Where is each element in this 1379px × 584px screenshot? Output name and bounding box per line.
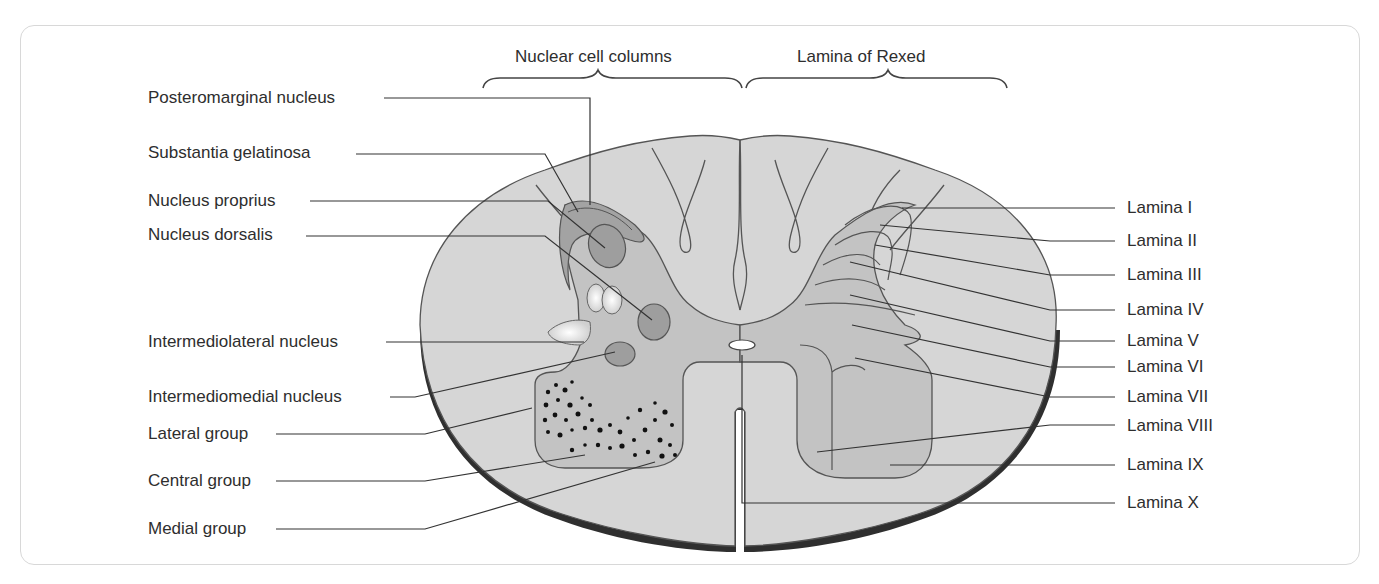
label-lamina-viii: Lamina VIII (1127, 416, 1213, 436)
label-lamina-i: Lamina I (1127, 198, 1192, 218)
label-lamina-vii: Lamina VII (1127, 387, 1208, 407)
label-lamina-ix: Lamina IX (1127, 455, 1204, 475)
header-nuclear-cell-columns: Nuclear cell columns (515, 47, 672, 67)
label-lamina-iv: Lamina IV (1127, 300, 1204, 320)
intermediomedial-nucleus (605, 342, 635, 366)
label-lamina-v: Lamina V (1127, 331, 1199, 351)
label-medial-group: Medial group (148, 519, 246, 539)
label-lamina-ii: Lamina II (1127, 231, 1197, 251)
central-canal (729, 340, 755, 350)
label-lamina-x: Lamina X (1127, 493, 1199, 513)
header-lamina-of-rexed: Lamina of Rexed (797, 47, 926, 67)
label-central-group: Central group (148, 471, 251, 491)
brace-lamina-of-rexed (746, 70, 1007, 88)
brace-nuclear-cell-columns (483, 70, 742, 88)
label-substantia-gelatinosa: Substantia gelatinosa (148, 143, 311, 163)
label-lamina-vi: Lamina VI (1127, 357, 1204, 377)
label-intermediomedial-nucleus: Intermediomedial nucleus (148, 387, 342, 407)
label-lamina-iii: Lamina III (1127, 265, 1202, 285)
label-intermediolateral-nucleus: Intermediolateral nucleus (148, 332, 338, 352)
label-nucleus-proprius: Nucleus proprius (148, 191, 276, 211)
label-lateral-group: Lateral group (148, 424, 248, 444)
nucleus-dorsalis (638, 304, 670, 340)
label-posteromarginal-nucleus: Posteromarginal nucleus (148, 88, 335, 108)
label-nucleus-dorsalis: Nucleus dorsalis (148, 225, 273, 245)
